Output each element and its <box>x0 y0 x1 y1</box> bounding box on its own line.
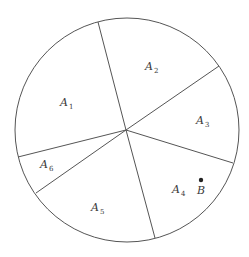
spokes <box>18 22 233 238</box>
region-label-a3: A3 <box>195 114 209 129</box>
region-label-a5: A5 <box>90 201 104 216</box>
point-b-label: B <box>196 184 205 197</box>
region-labels: A1A2A3A4A5A6 <box>39 60 209 216</box>
region-label-a6: A6 <box>39 158 54 173</box>
spoke-a3-a4 <box>126 130 233 163</box>
region-label-a1: A1 <box>59 96 73 111</box>
region-label-a2: A2 <box>144 60 158 75</box>
spoke-a1-a2 <box>98 22 126 130</box>
point-b-dot <box>199 178 203 182</box>
spoke-a5-a6 <box>36 130 126 193</box>
partition-diagram: A1A2A3A4A5A6 B <box>0 0 249 257</box>
spoke-a4-a5 <box>126 130 155 238</box>
region-label-a4: A4 <box>171 183 186 198</box>
spoke-a6-a1 <box>18 130 126 157</box>
